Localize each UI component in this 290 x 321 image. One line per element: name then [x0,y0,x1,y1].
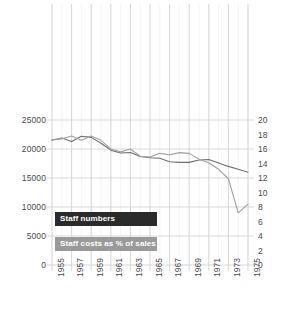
chart-container: 0500010000150002000025000 02468101214161… [0,0,290,321]
x-axis-tick-1975: 1975 [252,258,262,277]
left-axis-tick-5000: 5000 [4,231,46,241]
legend-item-staff-costs: Staff costs as % of sales [55,237,157,251]
right-axis-tick-10: 10 [258,188,268,198]
x-axis-tick-1973: 1973 [232,258,242,277]
right-axis-tick-4: 4 [258,231,263,241]
x-axis-tick-1959: 1959 [95,258,105,277]
right-axis-tick-6: 6 [258,217,263,227]
x-axis-tick-1967: 1967 [173,258,183,277]
legend-item-staff-numbers: Staff numbers [55,212,157,226]
x-axis-tick-1971: 1971 [212,258,222,277]
x-axis-tick-1965: 1965 [154,258,164,277]
x-axis-tick-1969: 1969 [193,258,203,277]
right-axis-tick-14: 14 [258,159,268,169]
right-axis-tick-18: 18 [258,130,268,140]
right-axis-tick-16: 16 [258,144,268,154]
right-axis-tick-20: 20 [258,115,268,125]
x-axis-tick-1957: 1957 [75,258,85,277]
left-axis-tick-0: 0 [4,260,46,270]
x-axis-tick-1961: 1961 [114,258,124,277]
right-axis-tick-2: 2 [258,246,263,256]
right-axis-tick-12: 12 [258,173,268,183]
left-axis-tick-10000: 10000 [4,202,46,212]
x-axis-tick-1955: 1955 [56,258,66,277]
chart-canvas [0,0,290,321]
x-axis-tick-1963: 1963 [134,258,144,277]
left-axis-tick-20000: 20000 [4,144,46,154]
left-axis-tick-15000: 15000 [4,173,46,183]
right-axis-tick-8: 8 [258,202,263,212]
left-axis-tick-25000: 25000 [4,115,46,125]
